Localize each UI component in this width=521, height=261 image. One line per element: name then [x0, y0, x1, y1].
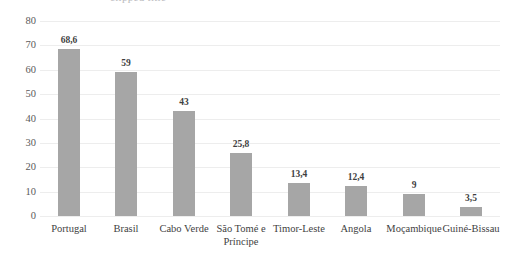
y-axis-tick-label: 50 — [2, 89, 36, 100]
y-axis-tick-label: 30 — [2, 138, 36, 149]
y-axis-tick-label: 10 — [2, 187, 36, 198]
y-axis-tick-label: 40 — [2, 114, 36, 125]
x-axis-tick-label: São Tomé e Príncipe — [210, 222, 272, 248]
bar[interactable] — [288, 183, 310, 216]
bar-value-label: 9 — [392, 181, 436, 191]
gridline — [40, 192, 500, 193]
bar-value-label: 3,5 — [449, 194, 493, 204]
bar[interactable] — [173, 111, 195, 216]
bar-value-label: 43 — [162, 98, 206, 108]
y-axis-tick-label: 0 — [2, 211, 36, 222]
bar-value-label: 12,4 — [334, 173, 378, 183]
bar-chart: clipped title 80706050403020100 68,65943… — [0, 0, 521, 261]
bar[interactable] — [403, 194, 425, 216]
y-axis: 80706050403020100 — [0, 21, 36, 216]
gridline — [40, 70, 500, 71]
bar-value-label: 25,8 — [219, 140, 263, 150]
chart-title-text: clipped title — [110, 0, 166, 3]
y-axis-tick-label: 20 — [2, 162, 36, 173]
bar[interactable] — [345, 186, 367, 216]
bar-value-label: 68,6 — [47, 36, 91, 46]
gridline — [40, 119, 500, 120]
x-axis-tick-label: Guiné-Bissau — [440, 222, 502, 235]
bar-value-label: 59 — [104, 59, 148, 69]
x-axis-tick-label: Portugal — [38, 222, 100, 235]
x-axis-tick-label: Moçambique — [383, 222, 445, 235]
x-axis-tick-label: Cabo Verde — [153, 222, 215, 235]
y-axis-tick-label: 80 — [2, 16, 36, 27]
x-axis-tick-label: Brasil — [95, 222, 157, 235]
x-axis-tick-label: Timor-Leste — [268, 222, 330, 235]
gridline — [40, 167, 500, 168]
bar-value-label: 13,4 — [277, 170, 321, 180]
bar[interactable] — [58, 49, 80, 216]
plot-area: 68,6594325,813,412,493,5 — [40, 21, 500, 216]
bar[interactable] — [460, 207, 482, 216]
x-axis-tick-label: Angola — [325, 222, 387, 235]
bar[interactable] — [115, 72, 137, 216]
gridline — [40, 21, 500, 22]
chart-title-clipped: clipped title — [0, 0, 521, 5]
y-axis-tick-label: 70 — [2, 40, 36, 51]
y-axis-tick-label: 60 — [2, 65, 36, 76]
gridline — [40, 216, 500, 217]
bar[interactable] — [230, 153, 252, 216]
gridline — [40, 45, 500, 46]
gridline — [40, 94, 500, 95]
gridline — [40, 143, 500, 144]
